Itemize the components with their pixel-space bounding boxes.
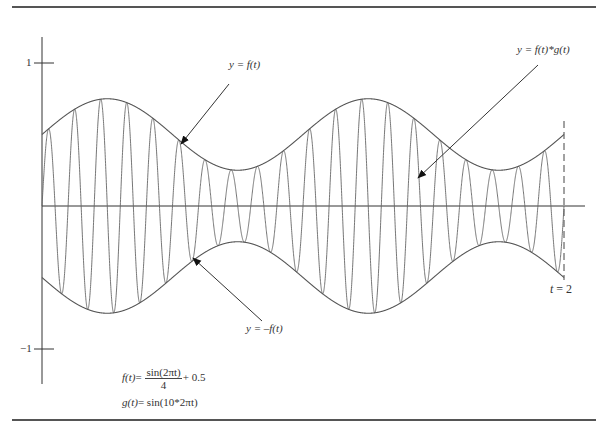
- label-upper-prefix: y =: [229, 58, 247, 70]
- formula-f: f(t)= sin(2πt) 4 + 0.5: [122, 366, 205, 391]
- y-tick-label-1: 1: [26, 56, 32, 68]
- y-tick-label-minus-1: −1: [20, 342, 32, 354]
- modulated-wave-figure: 1 −1 y = f(t) y = f(t)*g(t) y = –f(t) t …: [0, 0, 608, 430]
- label-t-end: t = 2: [550, 282, 572, 297]
- label-product-prefix: y =: [517, 43, 535, 55]
- arrow-upper-envelope: [181, 84, 229, 144]
- product-wave-curve: [42, 99, 564, 313]
- formula-f-lhs: f(t): [122, 371, 135, 383]
- lower-envelope-curve: [42, 242, 564, 314]
- label-product-func: f(t)*g(t): [535, 43, 570, 55]
- label-upper-func: f(t): [247, 58, 260, 70]
- label-upper-envelope: y = f(t): [229, 58, 260, 70]
- label-lower-func: f(t): [269, 322, 282, 334]
- formula-f-numerator: sin(2πt): [145, 366, 181, 379]
- label-lower-envelope: y = –f(t): [246, 322, 283, 334]
- formula-f-tail: + 0.5: [183, 371, 206, 383]
- arrow-lower-envelope: [193, 258, 262, 321]
- formula-f-denominator: 4: [145, 379, 181, 391]
- label-product-wave: y = f(t)*g(t): [517, 43, 570, 55]
- label-t-eq: = 2: [553, 282, 572, 296]
- upper-envelope-curve: [42, 99, 564, 171]
- formula-f-eq: =: [135, 371, 144, 383]
- arrow-product-wave: [418, 65, 538, 178]
- formula-g: g(t)= sin(10*2πt): [122, 396, 198, 408]
- formula-f-fraction: sin(2πt) 4: [145, 366, 181, 391]
- formula-g-lhs: g(t): [122, 396, 138, 408]
- plot-area: [0, 0, 608, 430]
- formula-g-rhs: = sin(10*2πt): [138, 396, 198, 408]
- label-lower-prefix: y = –: [246, 322, 269, 334]
